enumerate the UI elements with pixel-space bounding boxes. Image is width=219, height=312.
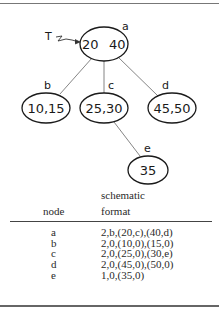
node-c-label: c bbox=[108, 79, 114, 92]
edge-c-e bbox=[114, 122, 140, 156]
node-d-label: d bbox=[162, 79, 169, 92]
edge-a-b bbox=[60, 58, 92, 94]
row-node: e bbox=[51, 269, 56, 281]
node-a: 20 40 a bbox=[80, 20, 129, 61]
tree-figure: 20 40 a T b 10,15 c 25,30 d 45,50 bbox=[0, 0, 219, 312]
header-rule bbox=[10, 221, 212, 222]
node-a-key-right: 40 bbox=[109, 37, 126, 52]
node-e-label: e bbox=[144, 142, 151, 155]
bottom-rule bbox=[0, 305, 219, 307]
header-node: node bbox=[43, 205, 64, 217]
node-e-keys: 35 bbox=[140, 163, 157, 178]
node-c-keys: 25,30 bbox=[85, 101, 122, 116]
header-format-line1: schematic bbox=[101, 189, 145, 201]
header-format-line2: format bbox=[101, 205, 130, 217]
node-d-keys: 45,50 bbox=[153, 101, 190, 116]
node-d: d 45,50 bbox=[148, 79, 196, 123]
node-a-label: a bbox=[122, 20, 129, 33]
node-b-keys: 10,15 bbox=[27, 101, 64, 116]
row-format: 1,0,(35,0) bbox=[101, 269, 144, 281]
node-a-key-left: 20 bbox=[82, 37, 99, 52]
pointer-arrow-icon bbox=[56, 36, 80, 44]
node-b-label: b bbox=[44, 79, 51, 92]
pointer-label: T bbox=[44, 30, 52, 43]
node-b: b 10,15 bbox=[22, 79, 70, 123]
edge-a-d bbox=[118, 57, 158, 96]
tree-diagram: 20 40 a T b 10,15 c 25,30 d 45,50 bbox=[0, 0, 219, 190]
